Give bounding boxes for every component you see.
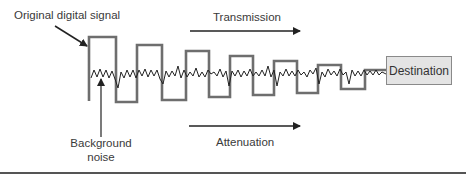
destination-label: Destination [389,64,449,78]
original-signal-pointer-arrow [55,26,87,46]
square-wave-signal [89,37,386,102]
transmission-label: Transmission [213,10,281,24]
attenuation-label: Attenuation [216,135,274,149]
background-noise-label-line1: Background [66,136,136,150]
signal-attenuation-diagram: Original digital signal Transmission Att… [0,0,466,177]
background-noise-label-line2: noise [66,150,136,164]
bottom-divider [0,172,466,174]
destination-box: Destination [386,56,452,85]
background-noise-label: Background noise [66,136,136,164]
original-signal-label: Original digital signal [14,8,120,22]
